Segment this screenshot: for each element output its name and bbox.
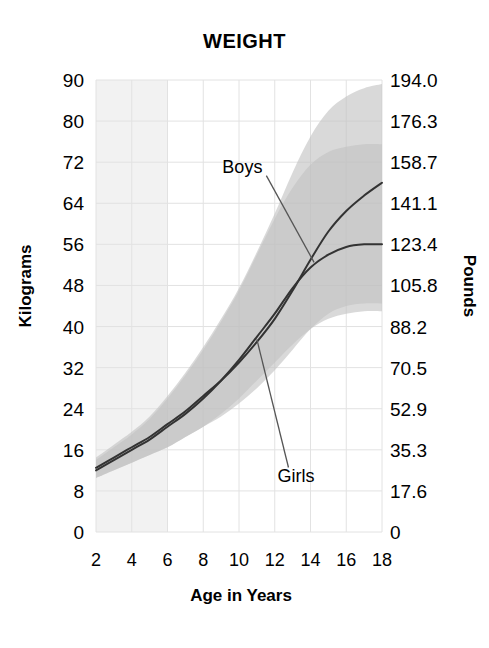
x-tick-label-age: 12 bbox=[255, 551, 295, 569]
x-tick-label-age: 10 bbox=[219, 551, 259, 569]
x-tick-label-age: 4 bbox=[112, 551, 152, 569]
x-tick-label-age: 14 bbox=[291, 551, 331, 569]
series-label-boys: Boys bbox=[222, 158, 262, 176]
x-tick-label-age: 16 bbox=[326, 551, 366, 569]
x-tick-label-age: 8 bbox=[183, 551, 223, 569]
x-tick-label-age: 18 bbox=[362, 551, 402, 569]
weight-growth-chart: WEIGHT Kilograms Pounds Age in Years 908… bbox=[0, 0, 489, 648]
x-axis-labels: 24681012141618 bbox=[0, 0, 489, 648]
x-tick-label-age: 6 bbox=[148, 551, 188, 569]
series-label-girls: Girls bbox=[277, 467, 314, 485]
x-tick-label-age: 2 bbox=[76, 551, 116, 569]
